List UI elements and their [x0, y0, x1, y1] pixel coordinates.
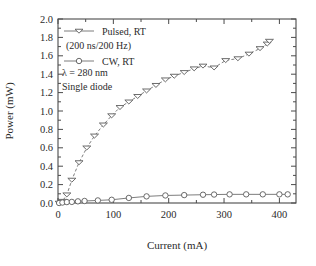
x-tick-label: 200 — [161, 209, 177, 220]
legend-marker-circle — [76, 58, 81, 63]
y-axis-tick-labels: 0.00.20.40.60.81.01.21.41.61.82.0 — [40, 14, 54, 209]
y-tick-label: 0.8 — [40, 124, 53, 135]
y-tick-label: 0.6 — [40, 142, 53, 153]
annotation-0: (200 ns/200 Hz) — [66, 40, 131, 52]
y-tick-label: 1.4 — [40, 69, 54, 80]
x-tick-label: 100 — [105, 209, 121, 220]
y-axis-title: Power (mW) — [3, 82, 16, 139]
data-point-marker — [109, 197, 114, 202]
x-axis-title: Current (mA) — [147, 239, 208, 252]
data-point-marker — [126, 195, 131, 200]
data-point-marker — [277, 192, 282, 197]
data-point-marker — [243, 192, 248, 197]
data-point-marker — [82, 198, 87, 203]
y-tick-label: 0.0 — [40, 198, 53, 209]
y-tick-label: 0.4 — [40, 161, 54, 172]
x-tick-label: 0 — [55, 209, 60, 220]
data-point-marker — [285, 192, 290, 197]
legend-label: Pulsed, RT — [102, 26, 146, 37]
y-tick-label: 1.2 — [40, 87, 53, 98]
y-tick-label: 2.0 — [40, 14, 53, 25]
x-tick-label: 400 — [272, 209, 288, 220]
data-point-marker — [181, 192, 186, 197]
annotation-1: λ = 280 nm — [62, 67, 108, 78]
data-point-marker — [211, 192, 216, 197]
data-point-marker — [75, 199, 80, 204]
y-tick-label: 1.8 — [40, 32, 53, 43]
data-point-marker — [69, 199, 74, 204]
y-tick-label: 0.2 — [40, 179, 53, 190]
x-tick-label: 300 — [216, 209, 232, 220]
y-tick-label: 1.0 — [40, 106, 53, 117]
y-tick-label: 1.6 — [40, 50, 53, 61]
chart-figure: 0100200300400 0.00.20.40.60.81.01.21.41.… — [0, 0, 316, 266]
data-point-marker — [227, 192, 232, 197]
power-vs-current-plot: 0100200300400 0.00.20.40.60.81.01.21.41.… — [0, 0, 316, 266]
data-point-marker — [260, 192, 265, 197]
data-point-marker — [95, 198, 100, 203]
annotation-2: Single diode — [62, 81, 113, 92]
data-point-marker — [200, 192, 205, 197]
data-point-marker — [144, 194, 149, 199]
data-point-marker — [163, 193, 168, 198]
legend-label: CW, RT — [102, 56, 134, 67]
